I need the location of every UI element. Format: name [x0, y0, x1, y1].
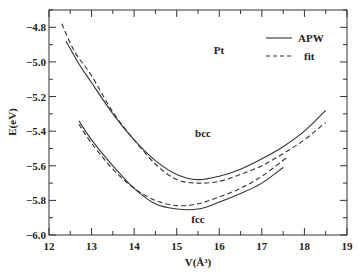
legend-label-fit: fit — [304, 50, 315, 62]
x-tick-label: 19 — [342, 240, 354, 252]
series-bcc-fit — [62, 24, 326, 183]
x-tick-label: 16 — [214, 240, 226, 252]
annotation-bcc: bcc — [195, 127, 211, 139]
legend-label-apw: APW — [298, 32, 324, 44]
y-tick-label: −5.0 — [26, 56, 47, 68]
x-tick-label: 18 — [299, 240, 311, 252]
x-tick-label: 13 — [86, 240, 98, 252]
energy-volume-chart: 1213141516171819 −4.8−5.0−5.2−5.4−5.6−5.… — [0, 0, 359, 277]
legend: APW fit — [266, 32, 324, 62]
x-tick-label: 15 — [171, 240, 183, 252]
y-tick-label: −6.0 — [26, 229, 47, 241]
annotation-fcc: fcc — [191, 213, 205, 225]
y-tick-label: −4.8 — [26, 21, 47, 33]
y-tick-label: −5.4 — [26, 125, 47, 137]
y-tick-label: −5.6 — [26, 160, 47, 172]
y-tick-label: −5.2 — [26, 91, 47, 103]
y-axis-ticks: −4.8−5.0−5.2−5.4−5.6−5.8−6.0 — [26, 10, 347, 241]
series-bcc-apw — [66, 41, 326, 179]
y-tick-label: −5.8 — [26, 194, 47, 206]
x-axis-label: V(Å³) — [185, 256, 212, 269]
x-tick-label: 12 — [44, 240, 56, 252]
x-tick-label: 14 — [129, 240, 141, 252]
series-fcc-fit — [79, 124, 288, 206]
x-tick-label: 17 — [256, 240, 268, 252]
series-lines — [62, 24, 326, 210]
annotation-pt: Pt — [214, 44, 225, 56]
y-axis-label: E(eV) — [6, 108, 19, 136]
